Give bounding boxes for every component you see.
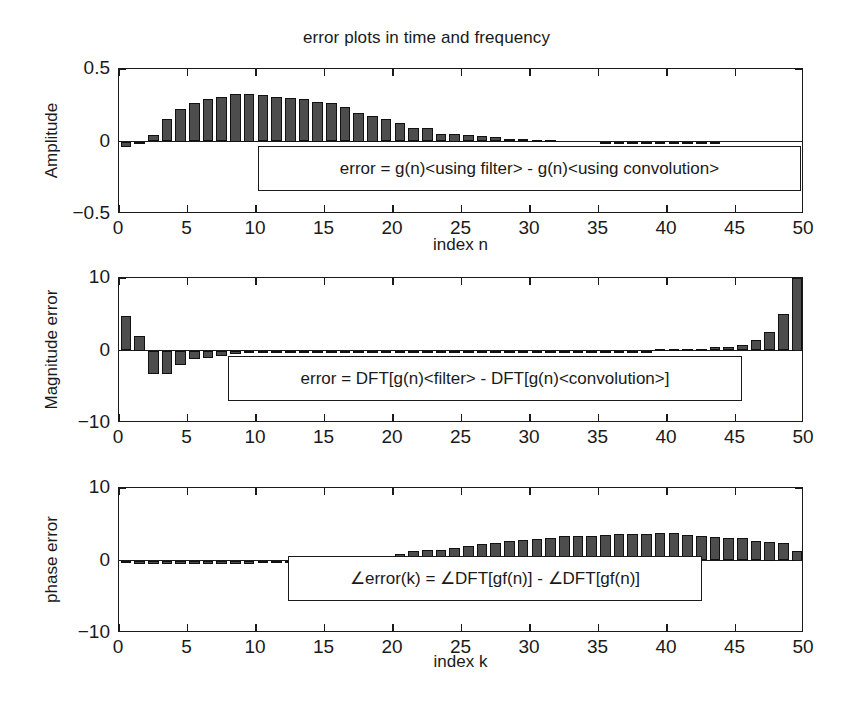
x-tick [392,414,393,421]
y-tick [795,350,802,351]
bar [764,332,775,351]
x-tick [461,278,462,285]
bar [532,351,543,353]
bar [504,351,515,353]
x-tick [324,414,325,421]
bar [751,340,762,350]
figure-title: error plots in time and frequency [0,28,853,48]
x-tick [598,205,599,212]
x-tick [529,624,530,631]
x-tick-label: 50 [792,426,813,448]
y-tick-label: 0 [54,130,110,152]
x-tick-label: 40 [655,426,676,448]
bar [326,103,337,141]
bar [244,351,255,354]
x-tick-label: 35 [587,217,608,239]
x-tick [324,205,325,212]
bar [710,347,721,350]
x-tick [666,278,667,285]
bar [203,99,214,142]
x-tick [598,69,599,76]
bar [189,561,200,564]
x-tick-label: 15 [313,636,334,658]
x-tick [735,488,736,495]
bar [258,351,269,354]
x-tick [461,414,462,421]
x-tick [187,69,188,76]
bar [463,351,474,353]
x-tick [735,69,736,76]
bar [353,351,364,353]
bar [285,98,296,142]
bar [532,140,543,142]
bar [682,142,693,144]
bar [600,351,611,353]
y-tick [119,560,126,561]
bar [203,561,214,564]
x-tick [255,414,256,421]
x-tick [529,414,530,421]
x-tick-label: 0 [113,217,124,239]
y-axis-label-phase-error: phase error [42,487,62,632]
bar [696,349,707,351]
bar [230,94,241,141]
bar [422,128,433,141]
y-tick [119,141,126,142]
x-tick-label: 40 [655,217,676,239]
bar [134,336,145,351]
x-tick-label: 35 [587,426,608,448]
x-tick [255,69,256,76]
x-tick-label: 30 [518,217,539,239]
y-axis-label-magnitude-error: Magnitude error [42,277,62,422]
bar [518,139,529,141]
x-tick [735,205,736,212]
x-axis-label-phase-error: index k [434,652,488,672]
bar [121,142,132,147]
y-tick [795,278,802,279]
bar [353,113,364,142]
y-tick [795,560,802,561]
x-tick [735,278,736,285]
bar [395,123,406,142]
y-tick-label: −10 [54,621,110,643]
bar [244,561,255,564]
bar [463,135,474,142]
bar [326,351,337,353]
y-tick-label: 10 [54,266,110,288]
bar [271,97,282,141]
x-tick [119,205,120,212]
bar [518,351,529,353]
x-tick [392,624,393,631]
bar [148,135,159,142]
x-tick-label: 30 [518,426,539,448]
panel-amplitude-error [118,68,803,213]
x-tick [598,624,599,631]
x-tick [461,624,462,631]
x-tick-label: 20 [381,426,402,448]
bar [737,538,748,560]
x-tick [187,278,188,285]
bar [299,99,310,142]
bar [614,351,625,353]
bar [258,95,269,141]
y-tick-label: 0 [54,549,110,571]
bar [627,351,638,353]
bar [778,314,789,351]
x-tick-label: 10 [244,426,265,448]
bar [669,142,680,144]
x-axis-label-amplitude-error: index n [433,235,488,255]
bar [244,94,255,141]
x-tick-label: 35 [587,636,608,658]
bar [696,142,707,144]
bar [778,543,789,560]
y-tick [119,350,126,351]
x-tick [255,488,256,495]
x-tick [666,69,667,76]
x-tick [529,488,530,495]
y-tick [119,69,126,70]
x-tick-label: 15 [313,426,334,448]
bar [258,561,269,564]
bar [614,142,625,144]
bar [436,134,447,142]
bar [189,351,200,360]
